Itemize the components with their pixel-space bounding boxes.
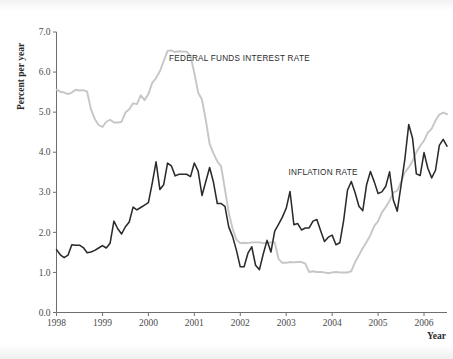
y-tick-label: 0.0 [39, 308, 51, 318]
x-tick-label: 2001 [185, 318, 204, 328]
y-tick-label: 7.0 [39, 27, 51, 37]
y-tick-label: 3.0 [39, 187, 51, 197]
x-axis-ticks: 199819992000200120022003200420052006 [47, 313, 434, 329]
x-tick-label: 2003 [277, 318, 296, 328]
y-tick-label: 5.0 [39, 107, 51, 117]
chart-canvas: 0.01.02.03.04.05.06.07.0 199819992000200… [0, 0, 453, 359]
x-tick-label: 1999 [93, 318, 112, 328]
series-line-federal-funds-interest-rate [57, 50, 448, 273]
y-tick-label: 6.0 [39, 67, 51, 77]
series-annotations: FEDERAL FUNDS INTEREST RATEINFLATION RAT… [169, 54, 358, 178]
series-annotation-label: FEDERAL FUNDS INTEREST RATE [169, 54, 310, 63]
y-axis-title: Percent per year [16, 42, 26, 110]
chart-figure: 0.01.02.03.04.05.06.07.0 199819992000200… [0, 0, 453, 359]
x-tick-label: 2005 [369, 318, 388, 328]
series-annotation-label: INFLATION RATE [289, 168, 358, 177]
y-axis-ticks: 0.01.02.03.04.05.06.07.0 [39, 27, 57, 318]
x-tick-label: 2002 [231, 318, 250, 328]
x-tick-label: 2000 [139, 318, 158, 328]
x-tick-label: 1998 [47, 318, 66, 328]
x-tick-label: 2004 [323, 318, 342, 328]
y-tick-label: 2.0 [39, 228, 51, 238]
x-tick-label: 2006 [415, 318, 434, 328]
y-tick-label: 4.0 [39, 147, 51, 157]
y-tick-label: 1.0 [39, 268, 51, 278]
x-axis-title: Year [427, 331, 447, 341]
series-line-inflation-rate [57, 125, 448, 270]
